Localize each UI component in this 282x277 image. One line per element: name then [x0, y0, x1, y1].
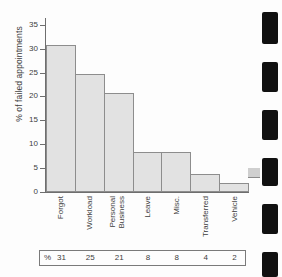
- x-axis-category-label: Workload: [85, 196, 94, 230]
- y-axis-tick-label: 15: [18, 115, 38, 124]
- x-axis-category-label: Forgot: [56, 196, 65, 219]
- table-cell: 4: [192, 251, 220, 265]
- table-cell: 21: [105, 251, 133, 265]
- bar: [104, 93, 134, 192]
- x-axis-category-label: PersonalBusiness: [108, 196, 126, 242]
- x-axis-category-label-line: Business: [117, 196, 126, 242]
- x-axis-category-label-line: Transferred: [201, 196, 210, 237]
- table-cell: 31: [47, 251, 75, 265]
- binding-mark: [262, 110, 278, 140]
- x-axis-category-label: Leave: [143, 196, 152, 218]
- page-background: % of failed appointments 05101520253035 …: [0, 0, 282, 277]
- y-axis-tick-label: 30: [18, 44, 38, 53]
- y-axis-tick-label: 5: [18, 163, 38, 172]
- binding-mark: [262, 62, 278, 92]
- bar: [46, 45, 76, 192]
- binding-mark: [262, 204, 278, 234]
- x-axis-category-label-line: Leave: [143, 196, 152, 218]
- x-axis-category-label: Vehicle: [230, 196, 239, 222]
- table-cell: 25: [76, 251, 104, 265]
- bar: [190, 174, 220, 192]
- binding-mark: [262, 12, 278, 44]
- x-axis-category-label-line: Misc.: [172, 196, 181, 215]
- y-axis-tick-label: 25: [18, 68, 38, 77]
- bar: [133, 152, 163, 192]
- y-axis-tick: [40, 192, 46, 193]
- x-axis-line: [45, 192, 249, 193]
- x-axis-category-label: Misc.: [172, 196, 181, 215]
- x-axis-category-label-line: Forgot: [56, 196, 65, 219]
- table-cell: 8: [163, 251, 191, 265]
- y-axis-tick-label: 10: [18, 139, 38, 148]
- data-table: % 3125218842: [39, 250, 246, 266]
- bar: [161, 152, 191, 192]
- x-axis-category-label-line: Workload: [85, 196, 94, 230]
- x-axis-category-label-line: Personal: [108, 196, 117, 242]
- binding-mark: [262, 252, 278, 277]
- bar: [219, 183, 249, 192]
- y-axis-tick-label: 20: [18, 91, 38, 100]
- y-axis-tick-label: 0: [18, 187, 38, 196]
- plot-area: [46, 20, 248, 192]
- scan-smudge: [248, 168, 260, 178]
- bar: [75, 74, 105, 192]
- table-cell: 2: [221, 251, 249, 265]
- y-axis-tick-label: 35: [18, 20, 38, 29]
- binding-mark: [262, 158, 278, 186]
- x-axis-category-label-line: Vehicle: [230, 196, 239, 222]
- x-axis-category-label: Transferred: [201, 196, 210, 237]
- table-cell: 8: [134, 251, 162, 265]
- bar-chart-figure: % of failed appointments 05101520253035 …: [0, 0, 258, 277]
